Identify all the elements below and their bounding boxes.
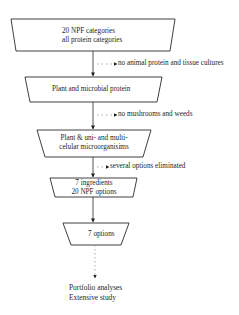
step-1-line-2: all protein categories	[62, 36, 122, 45]
step-3-line-2: celular microorganisims	[54, 143, 134, 152]
outcome-line-1: Portfolio analyses	[69, 283, 122, 293]
step-3-line-1: Plant & uni- and multi-	[54, 134, 134, 143]
outcome-line-2: Extensive study	[69, 293, 122, 303]
elimination-label-1: no animal protein and tissue cultures	[118, 59, 224, 68]
elimination-label-2: no mushrooms and weeds	[118, 110, 192, 119]
step-4-line-1: 7 ingredients	[60, 179, 128, 188]
step-3-label: Plant & uni- and multi- celular microorg…	[54, 134, 134, 152]
step-2-line-1: Plant and microbial protein	[52, 85, 130, 94]
outcome-label: Portfolio analyses Extensive study	[69, 283, 122, 303]
step-4-label: 7 ingredients 20 NPF options	[60, 179, 128, 197]
elimination-label-3: several options eliminated	[110, 162, 185, 171]
step-5-label: 7 options	[88, 230, 115, 239]
flowchart-shapes	[0, 0, 239, 315]
step-5-line-1: 7 options	[88, 230, 115, 239]
step-1-label: 20 NPF categories all protein categories	[62, 27, 122, 45]
step-2-label: Plant and microbial protein	[52, 85, 130, 94]
step-4-line-2: 20 NPF options	[60, 188, 128, 197]
step-1-line-1: 20 NPF categories	[62, 27, 122, 36]
